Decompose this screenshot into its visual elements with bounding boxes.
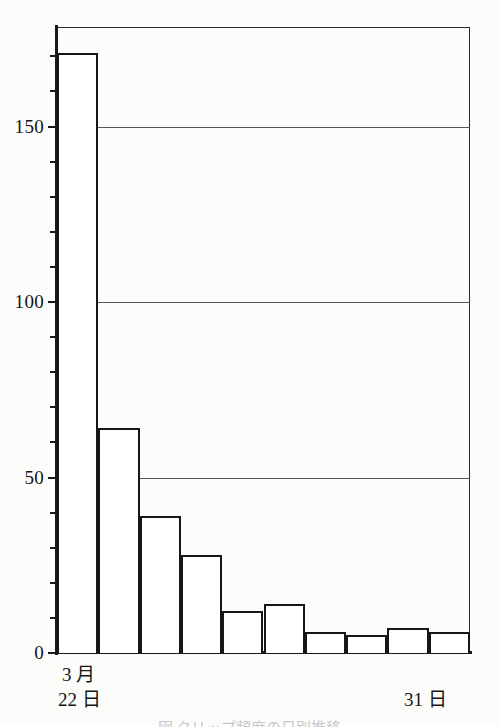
frame-right-border (469, 27, 470, 653)
y-tick-minor-130 (50, 196, 57, 198)
y-tick-minor-80 (50, 371, 57, 373)
bar (181, 555, 222, 653)
x-axis-label-left-month: 3 月 (62, 659, 95, 686)
y-tick-minor-40 (50, 512, 57, 514)
y-axis-label-150: 150 (0, 116, 44, 138)
y-axis-label-0: 0 (0, 642, 44, 664)
bar (140, 516, 181, 653)
y-tick-minor-70 (50, 406, 57, 408)
bar (429, 632, 470, 653)
x-axis-label-left-day: 22 日 (58, 684, 101, 711)
x-axis-label-right-day: 31 日 (404, 684, 447, 711)
y-tick-minor-170 (50, 55, 57, 57)
y-tick-major-50 (48, 477, 57, 479)
y-tick-minor-140 (50, 161, 57, 163)
y-tick-minor-20 (50, 582, 57, 584)
y-axis-label-100: 100 (0, 291, 44, 313)
y-tick-minor-10 (50, 617, 57, 619)
bar (305, 632, 346, 653)
y-tick-major-0 (48, 652, 57, 654)
y-tick-minor-30 (50, 547, 57, 549)
bar (57, 53, 98, 653)
y-axis-label-50: 50 (0, 467, 44, 489)
bar (98, 428, 139, 653)
y-tick-minor-90 (50, 336, 57, 338)
gridline-150 (57, 127, 470, 128)
bar (346, 635, 387, 653)
bar (387, 628, 428, 653)
y-tick-minor-110 (50, 266, 57, 268)
figure-caption: 図 クリップ頻度の日別推移 (0, 716, 499, 727)
bar (264, 604, 305, 653)
y-tick-minor-60 (50, 441, 57, 443)
frame-top-border (57, 27, 470, 28)
y-tick-major-100 (48, 301, 57, 303)
y-tick-major-150 (48, 126, 57, 128)
bar (222, 611, 263, 653)
y-tick-minor-160 (50, 90, 57, 92)
plot-area (57, 27, 470, 653)
y-tick-minor-120 (50, 231, 57, 233)
gridline-100 (57, 302, 470, 303)
